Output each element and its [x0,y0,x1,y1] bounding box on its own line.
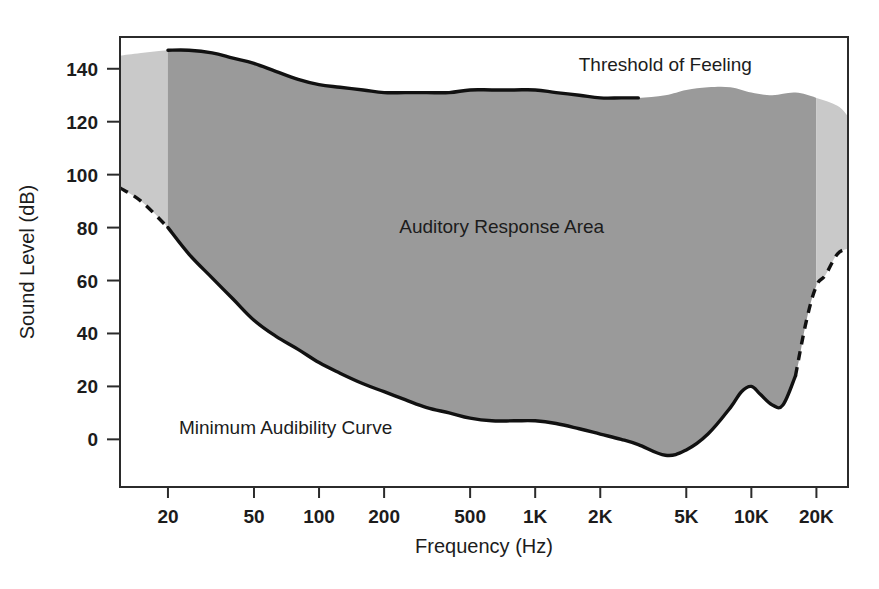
x-axis-title: Frequency (Hz) [415,535,553,557]
x-tick-label: 50 [243,506,264,527]
y-tick-label: 120 [66,112,98,133]
x-tick-label: 100 [303,506,335,527]
x-tick-label: 5K [674,506,699,527]
y-tick-label: 40 [77,323,98,344]
y-tick-label: 100 [66,165,98,186]
threshold-of-feeling-label: Threshold of Feeling [579,54,752,75]
x-tick-label: 200 [368,506,400,527]
auditory-response-area-label: Auditory Response Area [399,216,604,237]
y-tick-label: 60 [77,271,98,292]
y-tick-label: 80 [77,218,98,239]
y-tick-label: 0 [87,429,98,450]
y-tick-label: 140 [66,59,98,80]
x-tick-label: 10K [734,506,769,527]
x-tick-label: 20 [157,506,178,527]
x-tick-label: 500 [454,506,486,527]
minimum-audibility-curve-label: Minimum Audibility Curve [179,417,392,438]
x-tick-label: 2K [588,506,613,527]
x-tick-label: 1K [523,506,548,527]
auditory-response-area-chart: 20501002005001K2K5K10K20K 02040608010012… [0,0,879,589]
y-tick-label: 20 [77,376,98,397]
x-tick-label: 20K [799,506,834,527]
figure-container: 20501002005001K2K5K10K20K 02040608010012… [0,0,879,589]
y-axis-title: Sound Level (dB) [16,185,38,340]
